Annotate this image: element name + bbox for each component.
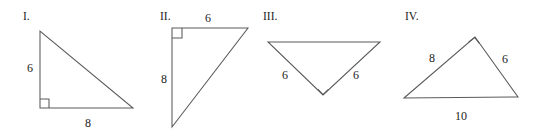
triangles-figure: I. 6 8 II. 6 8 III. 6 6 IV. 8 [0,0,547,138]
right-angle-marker-i [40,99,49,108]
figure-label-iii: III. [263,10,277,22]
side-label-iv-leg-upper-left: 8 [429,51,435,65]
triangle-group-iv: IV. 8 6 10 [404,10,518,123]
side-label-iv-leg-upper-right: 6 [502,52,508,66]
side-label-i-leg-vertical: 6 [27,61,33,75]
triangle-shape-ii [172,28,248,127]
right-angle-marker-ii [172,28,182,38]
triangle-group-ii: II. 6 8 [160,10,248,127]
figure-label-i: I. [23,10,30,22]
figure-label-ii: II. [160,10,171,22]
side-label-iii-leg-right: 6 [353,68,359,82]
side-label-ii-leg-top: 6 [205,11,211,25]
triangles-canvas: I. 6 8 II. 6 8 III. 6 6 IV. 8 [0,0,547,138]
figure-label-iv: IV. [405,10,419,22]
triangle-group-iii: III. 6 6 [263,10,380,95]
side-label-iii-leg-left: 6 [282,68,288,82]
triangle-shape-iv [404,37,518,98]
triangle-group-i: I. 6 8 [23,10,133,130]
triangle-shape-i [40,31,133,108]
side-label-iv-base: 10 [455,109,467,123]
side-label-ii-leg-left: 8 [161,72,167,86]
side-label-i-leg-horizontal: 8 [85,116,91,130]
